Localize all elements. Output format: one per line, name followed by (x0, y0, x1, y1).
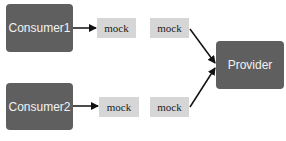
mock-label: mock (104, 22, 128, 34)
consumer2-node: Consumer2 (6, 83, 73, 130)
diagram-canvas: Consumer1 Consumer2 Provider mock mock m… (0, 0, 286, 141)
provider-label: Provider (228, 58, 273, 72)
mock-label: mock (107, 101, 131, 113)
arrow-mock-top-to-provider (190, 29, 215, 63)
mock-consumer1-node: mock (97, 18, 136, 38)
consumer2-label: Consumer2 (8, 100, 70, 114)
mock-label: mock (157, 22, 181, 34)
mock-consumer2-node: mock (99, 97, 139, 117)
mock-provider-top-node: mock (150, 18, 189, 38)
consumer1-label: Consumer1 (8, 21, 70, 35)
mock-label: mock (157, 101, 181, 113)
mock-provider-bottom-node: mock (150, 97, 189, 117)
provider-node: Provider (216, 41, 284, 89)
consumer1-node: Consumer1 (6, 4, 73, 52)
arrow-mock-bottom-to-provider (190, 68, 215, 107)
